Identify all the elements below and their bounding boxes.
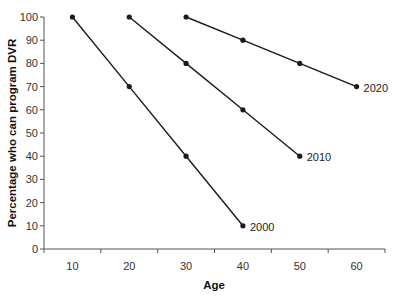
series-label: 2020 — [364, 82, 388, 94]
data-point-marker — [297, 61, 302, 66]
data-point-marker — [127, 84, 132, 89]
series-2000: 2000 — [70, 14, 275, 232]
x-tick-label: 60 — [350, 260, 362, 272]
x-axis-title: Age — [203, 279, 225, 291]
series-line — [129, 17, 300, 156]
y-axis-title: Percentage who can program DVR — [6, 38, 18, 227]
y-tick-label: 40 — [26, 150, 38, 162]
series-line — [72, 17, 243, 226]
y-tick-label: 30 — [26, 173, 38, 185]
data-point-marker — [70, 14, 75, 19]
y-tick-label: 50 — [26, 127, 38, 139]
data-point-marker — [183, 14, 188, 19]
series-layer: 200020102020 — [70, 14, 388, 232]
y-tick-label: 70 — [26, 81, 38, 93]
y-tick-label: 0 — [32, 243, 38, 255]
data-point-marker — [183, 61, 188, 66]
x-tick-label: 20 — [123, 260, 135, 272]
x-tick-label: 40 — [237, 260, 249, 272]
data-point-marker — [127, 14, 132, 19]
data-point-marker — [183, 154, 188, 159]
y-tick-label: 20 — [26, 197, 38, 209]
data-point-marker — [297, 154, 302, 159]
line-chart: 0102030405060708090100 102030405060 2000… — [0, 0, 395, 299]
y-tick-label: 100 — [20, 11, 38, 23]
data-point-marker — [240, 107, 245, 112]
series-2010: 2010 — [127, 14, 332, 163]
series-line — [186, 17, 357, 87]
y-tick-label: 60 — [26, 104, 38, 116]
y-tick-label: 10 — [26, 220, 38, 232]
series-label: 2010 — [307, 151, 331, 163]
y-tick-label: 80 — [26, 57, 38, 69]
y-tick-label: 90 — [26, 34, 38, 46]
x-tick-label: 30 — [180, 260, 192, 272]
data-point-marker — [354, 84, 359, 89]
data-point-marker — [240, 38, 245, 43]
series-2020: 2020 — [183, 14, 388, 93]
x-tick-label: 10 — [66, 260, 78, 272]
y-axis: 0102030405060708090100 — [20, 11, 44, 255]
x-axis: 102030405060 — [44, 249, 385, 272]
x-tick-label: 50 — [294, 260, 306, 272]
data-point-marker — [240, 223, 245, 228]
series-label: 2000 — [250, 221, 274, 233]
